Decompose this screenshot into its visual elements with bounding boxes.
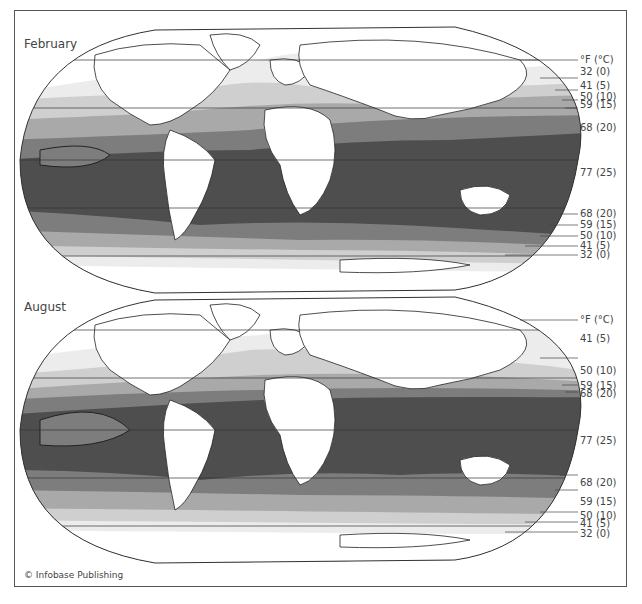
isotherm-label: 59 (15) — [580, 220, 616, 230]
isotherm-label: 59 (15) — [580, 100, 616, 110]
isotherm-label: 77 (25) — [580, 168, 616, 178]
august-map — [0, 290, 642, 580]
isotherm-label: 59 (15) — [580, 497, 616, 507]
isotherm-label: 41 (5) — [580, 81, 610, 91]
copyright-credit: © Infobase Publishing — [24, 570, 123, 580]
isotherm-label: 68 (20) — [580, 209, 616, 219]
isotherm-label: 50 (10) — [580, 366, 616, 376]
february-title: February — [24, 37, 77, 51]
isotherm-label: 41 (5) — [580, 334, 610, 344]
isotherm-label: 77 (25) — [580, 436, 616, 446]
sea-temperature-maps — [0, 0, 642, 604]
isotherm-label: 68 (20) — [580, 123, 616, 133]
isotherm-label: 32 (0) — [580, 67, 610, 77]
february-unit-header: °F (°C) — [580, 55, 614, 65]
isotherm-label: 68 (20) — [580, 389, 616, 399]
isotherm-label: 32 (0) — [580, 529, 610, 539]
isotherm-label: 32 (0) — [580, 250, 610, 260]
august-title: August — [24, 300, 66, 314]
isotherm-label: 68 (20) — [580, 478, 616, 488]
august-unit-header: °F (°C) — [580, 315, 614, 325]
